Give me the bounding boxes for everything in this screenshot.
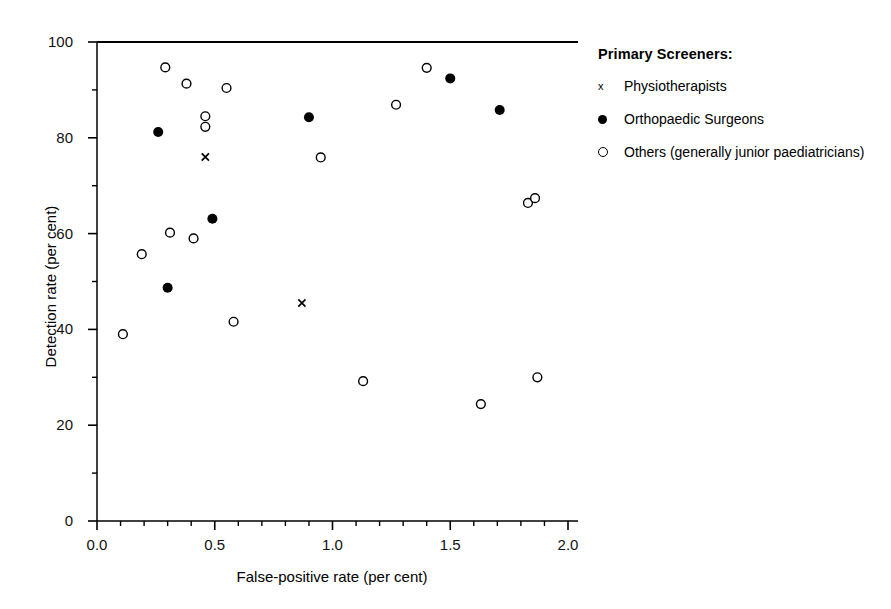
data-point-filled-circle xyxy=(495,105,505,115)
legend-entry-label: Orthopaedic Surgeons xyxy=(624,111,764,127)
y-axis-tick-label: 40 xyxy=(25,320,73,337)
x-axis-tick-label: 2.0 xyxy=(538,536,598,553)
legend-title: Primary Screeners: xyxy=(598,46,888,62)
y-axis-tick-label: 100 xyxy=(25,33,73,50)
data-point-open-circle xyxy=(137,250,146,259)
x-axis-tick-label: 0.0 xyxy=(67,536,127,553)
data-point-open-circle xyxy=(201,122,210,131)
data-point-filled-circle xyxy=(207,214,217,224)
data-point-x-marker xyxy=(202,153,209,160)
x-glyph: x xyxy=(598,81,604,92)
open-dot xyxy=(598,147,608,157)
data-point-open-circle xyxy=(201,112,210,121)
x-axis-tick-label: 1.5 xyxy=(420,536,480,553)
legend-entry: Orthopaedic Surgeons xyxy=(598,111,888,127)
data-point-open-circle xyxy=(531,194,540,203)
data-point-open-circle xyxy=(166,228,175,237)
data-point-x-marker xyxy=(298,299,305,306)
data-point-filled-circle xyxy=(163,283,173,293)
data-point-open-circle xyxy=(161,63,170,72)
open-circle-icon xyxy=(598,145,624,159)
legend-entry-label: Physiotherapists xyxy=(624,78,727,94)
data-point-open-circle xyxy=(119,330,128,339)
legend-entry-label: Others (generally junior paediatricians) xyxy=(624,144,864,160)
data-point-open-circle xyxy=(316,153,325,162)
x-axis-tick-label: 1.0 xyxy=(303,536,363,553)
data-point-open-circle xyxy=(422,63,431,72)
legend-entries: xPhysiotherapistsOrthopaedic SurgeonsOth… xyxy=(598,78,888,160)
data-point-open-circle xyxy=(392,100,401,109)
y-axis-tick-label: 80 xyxy=(25,129,73,146)
data-point-filled-circle xyxy=(445,73,455,83)
data-point-open-circle xyxy=(476,400,485,409)
data-point-open-circle xyxy=(189,234,198,243)
filled-circle-icon xyxy=(598,112,624,126)
y-axis-tick-label: 20 xyxy=(25,416,73,433)
y-axis-tick-label: 0 xyxy=(25,512,73,529)
data-point-open-circle xyxy=(222,84,231,93)
legend-entry: xPhysiotherapists xyxy=(598,78,888,94)
filled-dot xyxy=(598,115,607,124)
data-point-open-circle xyxy=(229,317,238,326)
y-axis-tick-label: 60 xyxy=(25,225,73,242)
data-point-filled-circle xyxy=(304,112,314,122)
chart-legend: Primary Screeners: xPhysiotherapistsOrth… xyxy=(598,46,888,177)
scatter-plot-figure: Detection rate (per cent) False-positive… xyxy=(0,0,891,609)
x-marker-icon: x xyxy=(598,79,624,93)
x-axis-tick-label: 0.5 xyxy=(185,536,245,553)
data-point-open-circle xyxy=(359,377,368,386)
data-point-open-circle xyxy=(182,79,191,88)
data-point-open-circle xyxy=(533,373,542,382)
legend-entry: Others (generally junior paediatricians) xyxy=(598,144,888,160)
x-axis-title: False-positive rate (per cent) xyxy=(157,568,507,585)
y-axis-title: Detection rate (per cent) xyxy=(42,147,59,427)
data-point-filled-circle xyxy=(153,127,163,137)
